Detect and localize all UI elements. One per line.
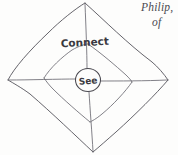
connect-label: Connect [60,35,109,50]
margin-note-line-2: of [152,16,161,28]
margin-note-line-1: Philip, [141,1,173,13]
outer-diamond-edge-right-bottom [93,80,168,152]
see-label: See [78,75,97,86]
spoke-right [100,80,167,81]
diagram-canvas: See Connect Philip, of [0,0,178,155]
outer-diamond-edge-bottom-left [8,80,93,152]
spoke-left [9,79,76,80]
